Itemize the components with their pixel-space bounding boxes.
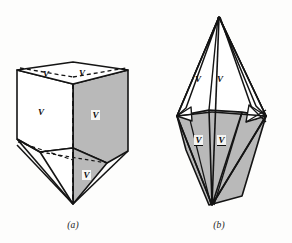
label-b-upper-left: V — [195, 75, 201, 84]
figure-panel-b: V V V V (b) — [146, 0, 292, 243]
caption-b: (b) — [146, 220, 292, 230]
label-a-right-face: V — [91, 110, 100, 120]
label-a-top-right: V — [79, 69, 85, 78]
label-a-top-left: V — [43, 70, 49, 79]
figure-a-drawing — [0, 0, 146, 243]
figure-b-drawing — [146, 0, 292, 243]
label-a-bottom: V — [82, 170, 91, 180]
label-b-lower-left: V — [194, 135, 203, 146]
label-b-lower-right: V — [217, 135, 226, 146]
label-a-left-face: V — [38, 108, 44, 117]
figure-panel-a: V V V V V (a) — [0, 0, 146, 243]
figure-plate: V V V V V (a) — [0, 0, 292, 243]
face-a-right-shaded — [73, 70, 128, 163]
face-b-upper-white — [177, 17, 266, 116]
caption-a: (a) — [0, 220, 146, 230]
label-b-upper-right: V — [217, 75, 223, 84]
